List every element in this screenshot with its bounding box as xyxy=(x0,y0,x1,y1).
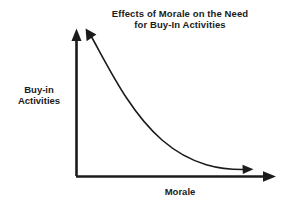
chart-title: Effects of Morale on the Need for Buy-In… xyxy=(88,8,272,30)
y-axis-label: Buy-in Activities xyxy=(4,84,74,106)
x-axis-label: Morale xyxy=(130,186,230,197)
arrow-up-icon xyxy=(72,29,82,42)
curve-end-arrow-right-icon xyxy=(243,165,254,174)
decay-curve xyxy=(91,35,247,170)
arrow-right-icon xyxy=(263,171,276,181)
chart-figure: Effects of Morale on the Need for Buy-In… xyxy=(0,0,296,212)
